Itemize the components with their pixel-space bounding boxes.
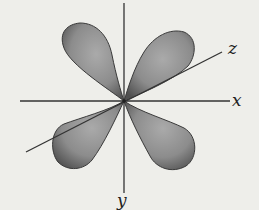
origin — [122, 99, 126, 103]
x-axis-label: x — [232, 92, 242, 109]
lobe-upper-left — [62, 23, 124, 101]
y-axis-label: y — [117, 192, 127, 209]
lobe-lower-left — [53, 101, 124, 169]
z-axis-label: z — [228, 40, 237, 57]
orbital-diagram — [0, 0, 259, 210]
lobe-upper-right — [124, 31, 194, 101]
lobe-lower-right — [124, 101, 195, 170]
